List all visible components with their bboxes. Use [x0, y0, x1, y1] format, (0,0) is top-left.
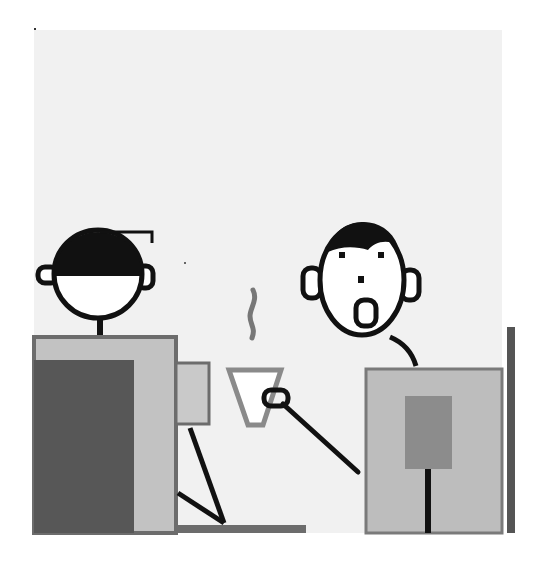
right-desk-screen [405, 396, 452, 469]
coffee-cup [229, 370, 281, 425]
left-desk-dark-panel [34, 360, 134, 533]
floor-bar [176, 525, 306, 533]
right-worker-eye-right [378, 252, 384, 258]
stray-dot-2 [184, 262, 186, 264]
right-panel-divider [507, 327, 515, 533]
right-desk-stand [425, 469, 431, 533]
right-worker-mouth [356, 300, 376, 326]
left-worker-hair [54, 232, 142, 276]
right-desk [366, 369, 502, 533]
left-desk [34, 337, 306, 533]
left-worker [38, 230, 153, 339]
stray-dot [34, 28, 36, 30]
chair-leg-1 [190, 428, 224, 523]
right-worker-eye-left [339, 252, 345, 258]
right-worker-nose [358, 276, 364, 283]
right-worker-neck [390, 337, 416, 366]
monitor [176, 363, 209, 424]
cartoon-illustration [0, 0, 548, 574]
steam [250, 290, 255, 338]
right-worker-arm [283, 404, 358, 472]
